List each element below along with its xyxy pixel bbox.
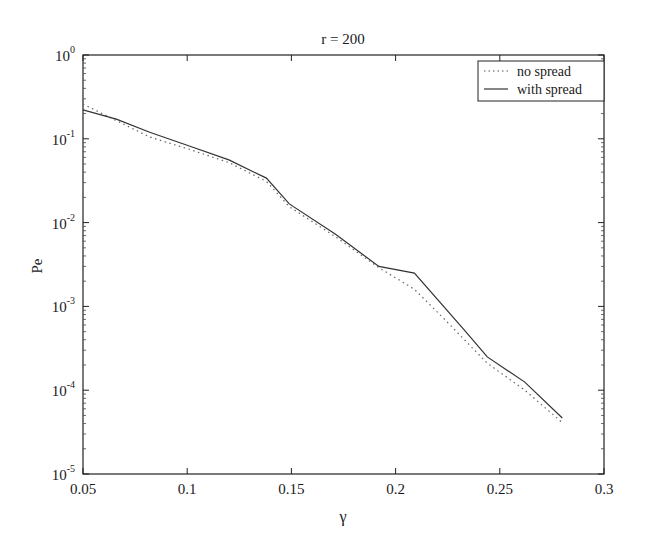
y-tick-label: 10-1 (52, 128, 75, 148)
x-tick-label: 0.05 (70, 481, 96, 497)
y-axis: 10010-110-210-310-410-5 (52, 44, 604, 483)
y-tick-label: 10-5 (52, 463, 75, 483)
y-tick-label: 10-4 (52, 379, 75, 399)
series-line-no-spread (83, 104, 562, 423)
x-tick-label: 0.2 (386, 481, 405, 497)
chart: r = 200 0.050.10.150.20.250.3 10010-110-… (0, 0, 646, 537)
y-axis-label: Pe (29, 258, 45, 273)
y-tick-label: 10-3 (52, 295, 75, 315)
x-tick-label: 0.1 (178, 481, 197, 497)
legend-label-with-spread: with spread (517, 82, 582, 97)
x-tick-label: 0.3 (595, 481, 614, 497)
chart-title: r = 200 (321, 31, 364, 47)
x-axis: 0.050.10.150.20.250.3 (70, 55, 614, 497)
x-axis-label: γ (338, 508, 346, 526)
legend-label-no-spread: no spread (517, 64, 571, 79)
x-tick-label: 0.25 (487, 481, 513, 497)
series-line-with-spread (83, 110, 562, 418)
plot-frame (83, 55, 604, 474)
y-tick-label: 10-2 (52, 212, 75, 232)
y-tick-label: 100 (55, 44, 75, 64)
plot-lines (83, 104, 562, 423)
x-tick-label: 0.15 (278, 481, 304, 497)
legend: no spread with spread (478, 61, 604, 101)
